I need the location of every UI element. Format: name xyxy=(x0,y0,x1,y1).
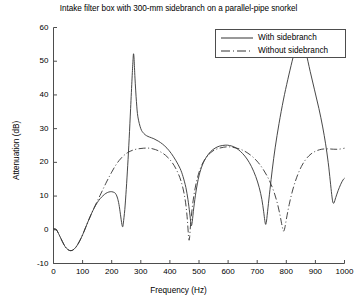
legend-swatch-solid xyxy=(220,32,254,43)
y-tick-label: 30 xyxy=(23,124,49,133)
y-tick-marks xyxy=(54,28,58,264)
y-tick-label: 50 xyxy=(23,56,49,65)
data-series-group xyxy=(54,35,345,251)
legend-swatch-dashdot xyxy=(220,45,254,56)
axis-lines xyxy=(54,28,345,264)
x-tick-marks xyxy=(54,260,345,264)
legend-label-1: Without sidebranch xyxy=(258,46,328,55)
y-tick-label: 10 xyxy=(23,191,49,200)
y-tick-label: 0 xyxy=(23,225,49,234)
legend-entry-with-sidebranch: With sidebranch xyxy=(220,31,317,44)
series-line-0 xyxy=(54,35,345,251)
x-tick-label: 1000 xyxy=(325,267,357,276)
y-tick-label: 60 xyxy=(23,23,49,32)
legend-label-0: With sidebranch xyxy=(258,33,317,42)
series-line-1 xyxy=(54,147,345,251)
legend: With sidebranch Without sidebranch xyxy=(215,29,346,58)
figure: Intake filter box with 300-mm sidebranch… xyxy=(0,0,357,304)
legend-entry-without-sidebranch: Without sidebranch xyxy=(220,44,328,57)
y-tick-label: -10 xyxy=(23,259,49,268)
y-tick-label: 40 xyxy=(23,90,49,99)
y-tick-label: 20 xyxy=(23,157,49,166)
